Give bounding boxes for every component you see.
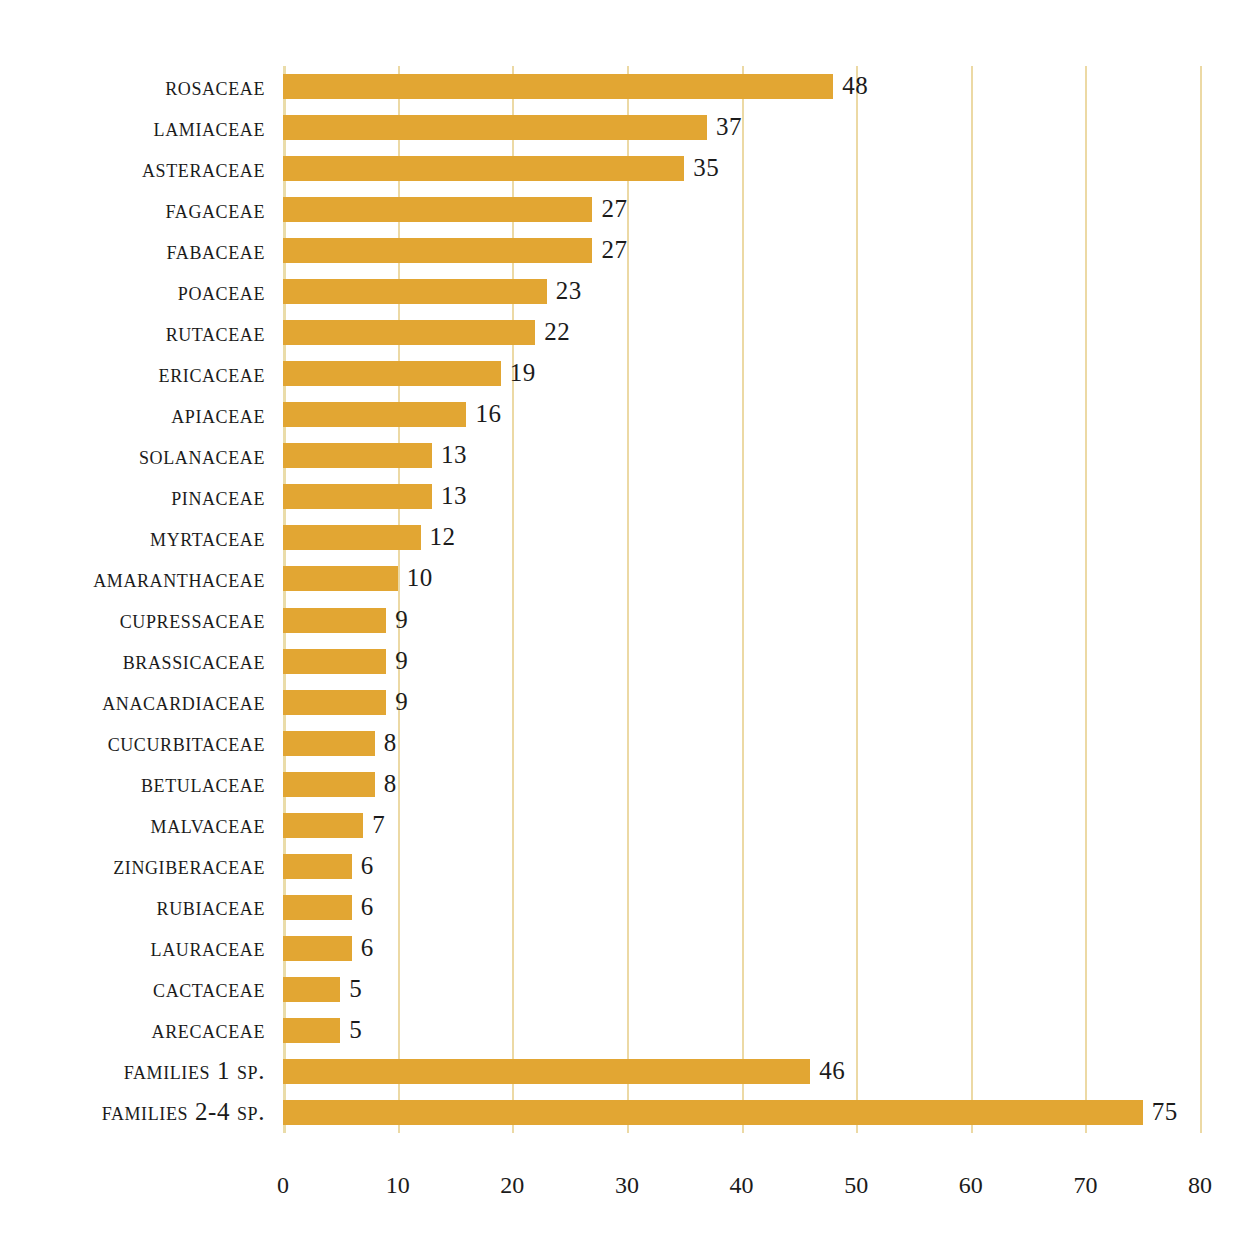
category-label: Rubiaceae bbox=[157, 887, 265, 928]
x-tick-label: 20 bbox=[500, 1172, 524, 1199]
category-label: Cupressaceae bbox=[120, 600, 265, 641]
bar[interactable] bbox=[283, 525, 421, 550]
bar-row: 10 bbox=[283, 558, 1200, 599]
category-label: Rutaceae bbox=[166, 312, 265, 353]
bar[interactable] bbox=[283, 1018, 340, 1043]
bar[interactable] bbox=[283, 197, 592, 222]
bar[interactable] bbox=[283, 977, 340, 1002]
x-tick-label: 30 bbox=[615, 1172, 639, 1199]
category-label: Betulaceae bbox=[141, 764, 265, 805]
bar-row: 12 bbox=[283, 517, 1200, 558]
bar-value-label: 75 bbox=[1152, 1096, 1178, 1128]
bar[interactable] bbox=[283, 649, 386, 674]
bar-value-label: 9 bbox=[395, 604, 408, 636]
bar[interactable] bbox=[283, 115, 707, 140]
category-label: Cactaceae bbox=[153, 969, 265, 1010]
bar[interactable] bbox=[283, 690, 386, 715]
bar-row: 5 bbox=[283, 1010, 1200, 1051]
bar-value-label: 22 bbox=[544, 316, 570, 348]
category-label: Families 2-4 Sp. bbox=[102, 1092, 265, 1133]
bar[interactable] bbox=[283, 895, 352, 920]
bar-row: 19 bbox=[283, 353, 1200, 394]
category-label: Cucurbitaceae bbox=[108, 723, 265, 764]
bar-row: 9 bbox=[283, 600, 1200, 641]
bar-row: 35 bbox=[283, 148, 1200, 189]
bar-value-label: 48 bbox=[842, 70, 868, 102]
bar-row: 13 bbox=[283, 476, 1200, 517]
x-tick-label: 0 bbox=[277, 1172, 289, 1199]
gridline-80 bbox=[1200, 66, 1202, 1133]
bar[interactable] bbox=[283, 279, 547, 304]
bar-chart: RosaceaeLamiaceaeAsteraceaeFagaceaeFabac… bbox=[0, 0, 1258, 1245]
bar-value-label: 19 bbox=[510, 357, 536, 389]
bar-value-label: 27 bbox=[601, 193, 627, 225]
bar-value-label: 5 bbox=[349, 1014, 362, 1046]
bar-row: 48 bbox=[283, 66, 1200, 107]
bar-row: 9 bbox=[283, 641, 1200, 682]
bar-value-label: 6 bbox=[361, 932, 374, 964]
category-label: Rosaceae bbox=[165, 66, 265, 107]
category-label: Solanaceae bbox=[139, 435, 265, 476]
bar[interactable] bbox=[283, 484, 432, 509]
bar[interactable] bbox=[283, 156, 684, 181]
bar-row: 7 bbox=[283, 805, 1200, 846]
bar-row: 8 bbox=[283, 723, 1200, 764]
category-label: Lauraceae bbox=[151, 928, 265, 969]
bar[interactable] bbox=[283, 1100, 1143, 1125]
category-label: Malvaceae bbox=[151, 805, 265, 846]
bar[interactable] bbox=[283, 443, 432, 468]
bar-value-label: 35 bbox=[693, 152, 719, 184]
category-axis-labels: RosaceaeLamiaceaeAsteraceaeFagaceaeFabac… bbox=[0, 66, 265, 1133]
bar[interactable] bbox=[283, 566, 398, 591]
bar-row: 37 bbox=[283, 107, 1200, 148]
bar-value-label: 46 bbox=[819, 1055, 845, 1087]
bar-value-label: 9 bbox=[395, 645, 408, 677]
category-label: Fagaceae bbox=[166, 189, 265, 230]
category-label: Ericaceae bbox=[159, 353, 265, 394]
bar[interactable] bbox=[283, 608, 386, 633]
x-tick-label: 50 bbox=[844, 1172, 868, 1199]
bar[interactable] bbox=[283, 936, 352, 961]
category-label: Arecaceae bbox=[152, 1010, 265, 1051]
bar[interactable] bbox=[283, 731, 375, 756]
bar[interactable] bbox=[283, 238, 592, 263]
bar[interactable] bbox=[283, 854, 352, 879]
bar[interactable] bbox=[283, 361, 501, 386]
bar[interactable] bbox=[283, 772, 375, 797]
x-tick-label: 80 bbox=[1188, 1172, 1212, 1199]
bar-value-label: 6 bbox=[361, 850, 374, 882]
bar[interactable] bbox=[283, 813, 363, 838]
bar-row: 8 bbox=[283, 764, 1200, 805]
bar-value-label: 13 bbox=[441, 480, 467, 512]
bar-value-label: 12 bbox=[430, 521, 456, 553]
bar-row: 27 bbox=[283, 230, 1200, 271]
bar[interactable] bbox=[283, 74, 833, 99]
bar-row: 5 bbox=[283, 969, 1200, 1010]
category-label: Families 1 Sp. bbox=[124, 1051, 265, 1092]
x-tick-label: 40 bbox=[730, 1172, 754, 1199]
category-label: Amaranthaceae bbox=[93, 558, 265, 599]
category-label: Poaceae bbox=[178, 271, 265, 312]
x-tick-label: 10 bbox=[386, 1172, 410, 1199]
category-label: Pinaceae bbox=[171, 476, 265, 517]
category-label: Lamiaceae bbox=[154, 107, 265, 148]
bar-row: 27 bbox=[283, 189, 1200, 230]
bar-value-label: 8 bbox=[384, 768, 397, 800]
bar-value-label: 27 bbox=[601, 234, 627, 266]
category-label: Anacardiaceae bbox=[102, 682, 265, 723]
bar-rows: 4837352727232219161313121099988766655467… bbox=[283, 66, 1200, 1133]
bar-row: 13 bbox=[283, 435, 1200, 476]
bar-row: 22 bbox=[283, 312, 1200, 353]
bar-row: 6 bbox=[283, 887, 1200, 928]
bar[interactable] bbox=[283, 320, 535, 345]
bar-row: 9 bbox=[283, 682, 1200, 723]
bar-value-label: 8 bbox=[384, 727, 397, 759]
bar-row: 75 bbox=[283, 1092, 1200, 1133]
bar[interactable] bbox=[283, 402, 466, 427]
bar-value-label: 6 bbox=[361, 891, 374, 923]
bar-value-label: 23 bbox=[556, 275, 582, 307]
category-label: Brassicaceae bbox=[123, 641, 265, 682]
bar-row: 23 bbox=[283, 271, 1200, 312]
bar-value-label: 9 bbox=[395, 686, 408, 718]
bar[interactable] bbox=[283, 1059, 810, 1084]
